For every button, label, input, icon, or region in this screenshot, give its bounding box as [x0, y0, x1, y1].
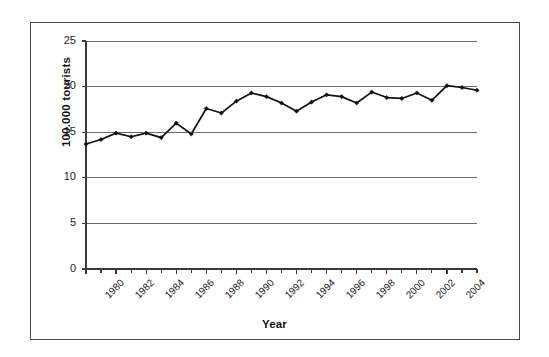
y-tick-label: 5	[46, 216, 76, 228]
gridlines	[86, 41, 477, 269]
data-series-tourists	[84, 84, 479, 147]
y-axis-title: 100.000 tourists	[60, 22, 72, 182]
x-axis-title: Year	[0, 318, 549, 330]
y-tick-label: 0	[46, 262, 76, 274]
axis-lines	[86, 41, 477, 269]
chart-figure: 0510152025 19801982198419861988199019921…	[0, 0, 549, 357]
line-chart-canvas	[0, 0, 549, 357]
